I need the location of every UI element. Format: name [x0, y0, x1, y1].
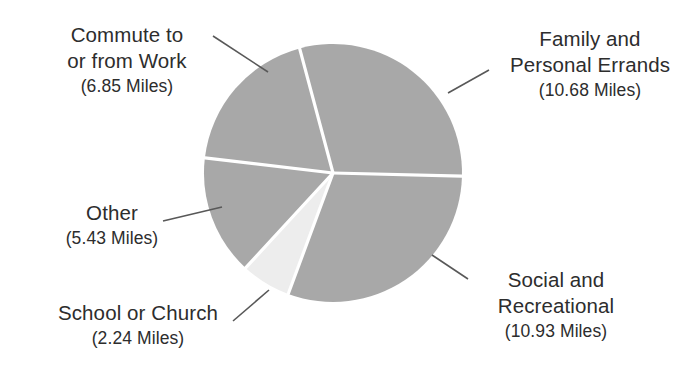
pie-chart-figure: Commute to or from Work (6.85 Miles) Fam… [0, 0, 696, 381]
pie-label-social-line1: Social and [458, 267, 654, 293]
leader-line-family [448, 70, 489, 93]
pie-label-school-or-church: School or Church (2.24 Miles) [14, 300, 262, 350]
pie-label-social-and-recreational: Social and Recreational (10.93 Miles) [458, 267, 654, 343]
pie-label-social-line2: Recreational [458, 293, 654, 319]
pie-label-commute-to-or-from-work: Commute to or from Work (6.85 Miles) [16, 22, 238, 98]
pie-label-family-value: (10.68 Miles) [492, 79, 688, 101]
pie-label-commute-value: (6.85 Miles) [16, 75, 238, 97]
pie-label-school-line1: School or Church [14, 300, 262, 326]
pie-label-commute-line2: or from Work [16, 48, 238, 74]
pie-label-social-value: (10.93 Miles) [458, 320, 654, 342]
pie-label-commute-line1: Commute to [16, 22, 238, 48]
pie-label-family-line1: Family and [492, 26, 688, 52]
pie-label-other-line1: Other [22, 200, 202, 226]
pie-label-family-line2: Personal Errands [492, 52, 688, 78]
pie-label-school-value: (2.24 Miles) [14, 327, 262, 349]
pie-label-other: Other (5.43 Miles) [22, 200, 202, 250]
pie-label-family-and-personal-errands: Family and Personal Errands (10.68 Miles… [492, 26, 688, 102]
pie-label-other-value: (5.43 Miles) [22, 227, 202, 249]
